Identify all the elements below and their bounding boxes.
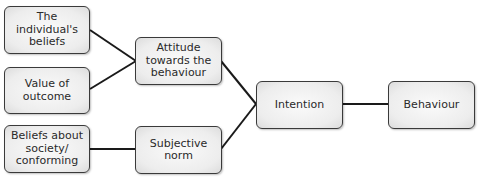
node-behaviour: Behaviour	[388, 81, 475, 129]
node-label: Value of outcome	[23, 78, 71, 103]
edge-beliefs-attitude	[90, 30, 136, 61]
node-beliefs-about-society: Beliefs about society/ conforming	[4, 125, 90, 173]
node-label: Attitude towards the behaviour	[146, 42, 211, 80]
node-individual-beliefs: The individual's beliefs	[4, 6, 90, 54]
node-intention: Intention	[256, 81, 343, 129]
node-label: Beliefs about society/ conforming	[11, 130, 83, 168]
node-label: Intention	[275, 99, 324, 112]
node-label: Behaviour	[404, 99, 460, 112]
edge-attitude-intention	[221, 61, 256, 104]
node-subjective-norm: Subjective norm	[135, 126, 222, 174]
node-value-of-outcome: Value of outcome	[4, 67, 90, 114]
edge-value-attitude	[90, 61, 136, 89]
node-attitude: Attitude towards the behaviour	[135, 37, 222, 85]
node-label: Subjective norm	[150, 138, 207, 163]
edge-norm-intention	[221, 104, 256, 149]
node-label: The individual's beliefs	[9, 11, 85, 49]
